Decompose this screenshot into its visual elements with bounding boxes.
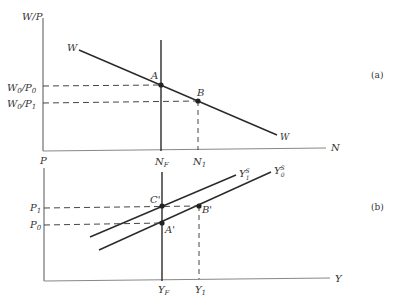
point-b-label: B xyxy=(196,87,204,98)
panel-b: P Y C' A' B' YS1 YS0 P1 P0 YF Y1 (b) xyxy=(29,155,384,297)
panel-b-y-axis-label: P xyxy=(39,155,47,166)
labor-market-aggregate-supply-diagram: W/P N W W A B W0/P0 W0/P1 NF N1 (a) P xyxy=(0,0,402,305)
panel-b-x-axis xyxy=(44,278,330,281)
curve-label-w-start: W xyxy=(67,42,78,53)
labor-demand-curve xyxy=(79,50,277,135)
supply-curve-y0s xyxy=(99,172,271,250)
x-tick-nf: NF xyxy=(154,156,170,169)
x-tick-y1: Y1 xyxy=(195,284,206,297)
point-b-prime xyxy=(196,203,201,208)
diagram-canvas: W/P N W W A B W0/P0 W0/P1 NF N1 (a) P xyxy=(0,0,402,305)
y-tick-w0-p1: W0/P1 xyxy=(7,98,36,111)
panel-a-x-axis xyxy=(43,148,326,151)
x-tick-n1: N1 xyxy=(192,156,206,169)
curve-label-y0s: YS0 xyxy=(274,164,285,178)
panel-b-tag: (b) xyxy=(371,202,384,212)
panel-b-x-axis-label: Y xyxy=(335,273,343,284)
panel-a-x-axis-label: N xyxy=(330,142,341,153)
curve-label-w-end: W xyxy=(280,132,290,142)
point-c-prime-label: C' xyxy=(150,194,160,205)
dashed-p0 xyxy=(44,223,162,225)
y-tick-p1: P1 xyxy=(29,202,41,215)
dashed-p1 xyxy=(44,206,199,208)
point-b xyxy=(195,98,200,103)
point-a-prime-label: A' xyxy=(164,224,175,235)
panel-a-tag: (a) xyxy=(371,70,383,80)
curve-label-y1s: YS1 xyxy=(239,167,250,181)
dashed-w0p0 xyxy=(43,85,161,86)
point-b-prime-label: B' xyxy=(201,204,212,215)
svg-text:W0/P1: W0/P1 xyxy=(7,98,36,111)
svg-text:W0/P0: W0/P0 xyxy=(7,82,37,95)
x-tick-yf: YF xyxy=(158,284,171,297)
dashed-w0p1 xyxy=(43,101,198,103)
point-a-label: A xyxy=(150,70,158,81)
point-a-prime xyxy=(159,220,164,225)
y-tick-p0: P0 xyxy=(29,219,42,232)
y-tick-w0-p0: W0/P0 xyxy=(7,82,37,95)
panel-a: W/P N W W A B W0/P0 W0/P1 NF N1 (a) xyxy=(7,11,383,169)
point-a xyxy=(158,82,163,87)
panel-a-y-axis-label: W/P xyxy=(22,11,43,22)
